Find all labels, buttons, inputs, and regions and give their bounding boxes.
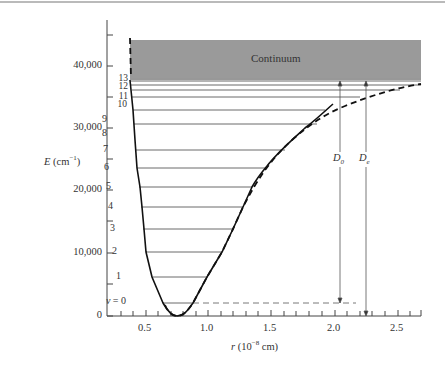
de-label: De xyxy=(358,152,371,166)
x-axis-label: r (10−8 cm) xyxy=(231,339,278,352)
d0-arrow xyxy=(338,81,342,303)
level-label-4: 4 xyxy=(83,200,113,211)
vibrational-levels xyxy=(131,81,421,303)
x-tick-1.5: 1.5 xyxy=(263,322,276,333)
level-label-2: 2 xyxy=(87,245,117,256)
y-tick-40000: 40,000 xyxy=(22,59,102,70)
potential-curve-solid xyxy=(130,80,333,316)
level-label-9: 9 xyxy=(77,113,107,124)
level-label-13: 13 xyxy=(98,73,128,83)
y-axis-label: E E (cm(cm−1) xyxy=(44,154,80,167)
d0-label: D0 xyxy=(332,152,345,166)
x-tick-2.5: 2.5 xyxy=(390,322,403,333)
de-arrow xyxy=(364,81,368,316)
level-label-8: 8 xyxy=(77,127,107,138)
level-label-11: 11 xyxy=(98,91,128,101)
x-tick-0.5: 0.5 xyxy=(138,322,151,333)
x-axis xyxy=(107,310,421,316)
level-label-7: 7 xyxy=(78,143,108,154)
level-label-6: 6 xyxy=(79,161,109,172)
x-tick-2.0: 2.0 xyxy=(327,322,340,333)
level-label-5: 5 xyxy=(81,180,111,191)
level-label-v0: v = 0 xyxy=(96,295,126,306)
y-tick-0: 0 xyxy=(22,309,102,320)
level-label-1: 1 xyxy=(91,270,121,281)
x-tick-1.0: 1.0 xyxy=(200,322,213,333)
continuum-label: Continuum xyxy=(251,52,301,64)
morse-curve-dashed xyxy=(130,38,421,316)
level-label-3: 3 xyxy=(85,222,115,233)
